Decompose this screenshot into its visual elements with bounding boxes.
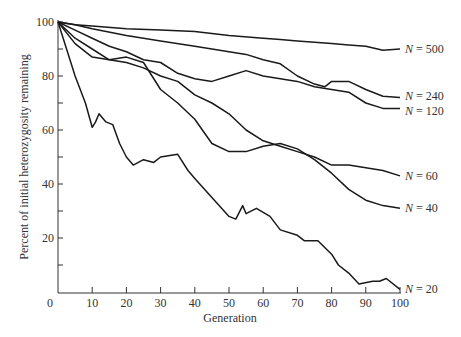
series-line xyxy=(58,22,400,208)
x-tick-label: 60 xyxy=(257,296,269,310)
series-label: N = 60 xyxy=(404,169,438,183)
y-tick-label: 40 xyxy=(42,177,54,191)
x-tick-label: 20 xyxy=(120,296,132,310)
x-tick-label: 100 xyxy=(391,296,409,310)
x-tick-label: 0 xyxy=(47,296,53,310)
x-ticks: 0102030405060708090100 xyxy=(47,287,409,310)
x-tick-label: 30 xyxy=(155,296,167,310)
series-label: N = 240 xyxy=(404,89,444,103)
axes xyxy=(58,20,401,293)
y-tick-label: 60 xyxy=(42,123,54,137)
x-tick-label: 80 xyxy=(326,296,338,310)
y-tick-label: 20 xyxy=(42,231,54,245)
series-lines xyxy=(58,22,400,289)
heterozygosity-chart: 20406080100 0102030405060708090100 N = 5… xyxy=(0,0,461,337)
x-tick-label: 90 xyxy=(360,296,372,310)
series-line xyxy=(58,22,400,289)
series-label: N = 20 xyxy=(404,282,438,296)
series-label: N = 500 xyxy=(404,42,444,56)
x-tick-label: 40 xyxy=(189,296,201,310)
y-axis-label: Percent of initial heterozygosity remain… xyxy=(17,54,31,259)
y-tick-label: 80 xyxy=(42,69,54,83)
x-tick-label: 50 xyxy=(223,296,235,310)
y-ticks: 20406080100 xyxy=(36,15,63,265)
x-tick-label: 10 xyxy=(86,296,98,310)
x-axis-label: Generation xyxy=(203,311,256,325)
series-labels: N = 500N = 240N = 120N = 60N = 40N = 20 xyxy=(404,42,444,296)
series-label: N = 40 xyxy=(404,201,438,215)
y-tick-label: 100 xyxy=(36,15,54,29)
x-tick-label: 70 xyxy=(291,296,303,310)
series-label: N = 120 xyxy=(404,104,444,118)
